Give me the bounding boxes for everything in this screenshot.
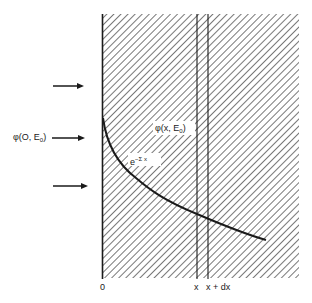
- hatched-slab: [102, 14, 299, 278]
- incident-flux-label-close: ): [43, 132, 46, 142]
- upper-incident-arrow: [53, 83, 84, 89]
- x-label: x: [194, 283, 199, 292]
- local-flux-label: φ(x, E0): [155, 124, 186, 134]
- attenuation-diagram: [0, 0, 312, 303]
- incident-flux-label-text: φ(O, E: [13, 132, 40, 142]
- incident-flux-label: φ(O, E0): [13, 133, 46, 143]
- decay-label: e−Σ x: [130, 156, 147, 167]
- x-plus-dx-label-text: x + dx: [206, 282, 230, 292]
- decay-exponent: −Σ x: [135, 156, 147, 162]
- origin-label-text: 0: [100, 282, 105, 292]
- local-flux-label-text: φ(x, E: [155, 123, 179, 133]
- local-flux-label-close: ): [183, 123, 186, 133]
- x-label-text: x: [194, 282, 199, 292]
- middle-incident-arrow: [52, 135, 85, 141]
- origin-label: 0: [100, 283, 105, 292]
- lower-incident-arrow: [53, 183, 88, 189]
- x-plus-dx-label: x + dx: [206, 283, 230, 292]
